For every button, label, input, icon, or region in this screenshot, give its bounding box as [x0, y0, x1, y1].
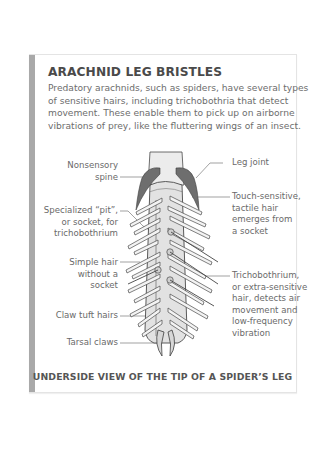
label-tactile-hair: Touch-sensitive, tactile hair emerges fr…	[232, 191, 301, 237]
label-line: Specialized “pit”,	[44, 205, 118, 217]
label-line: a socket	[232, 226, 301, 238]
label-claw-tuft-hairs: Claw tuft hairs	[56, 310, 118, 322]
label-line: Tarsal claws	[67, 337, 118, 349]
label-line: or socket, for	[44, 217, 118, 229]
diagram-caption: UNDERSIDE VIEW OF THE TIP OF A SPIDER’S …	[29, 371, 296, 382]
label-line: Trichobothrium,	[232, 270, 307, 282]
label-line: trichobothrium	[44, 228, 118, 240]
label-line: movement and	[232, 305, 307, 317]
label-line: hair, detects air	[232, 293, 307, 305]
label-tarsal-claws: Tarsal claws	[67, 337, 118, 349]
label-line: without a	[69, 269, 118, 281]
label-trichobothrium: Trichobothrium, or extra-sensitive hair,…	[232, 270, 307, 340]
label-line: or extra-sensitive	[232, 282, 307, 294]
label-line: vibration	[232, 328, 307, 340]
label-simple-hair: Simple hair without a socket	[69, 257, 118, 292]
label-line: Touch-sensitive,	[232, 191, 301, 203]
label-line: Simple hair	[69, 257, 118, 269]
label-line: tactile hair	[232, 203, 301, 215]
label-line: Leg joint	[232, 157, 269, 169]
label-line: Claw tuft hairs	[56, 310, 118, 322]
label-line: emerges from	[232, 214, 301, 226]
label-line: Nonsensory	[67, 160, 118, 172]
label-specialized-pit: Specialized “pit”, or socket, for tricho…	[44, 205, 118, 240]
label-line: low-frequency	[232, 316, 307, 328]
label-leg-joint: Leg joint	[232, 157, 269, 169]
label-line: socket	[69, 280, 118, 292]
label-line: spine	[67, 172, 118, 184]
label-nonsensory-spine: Nonsensory spine	[67, 160, 118, 183]
